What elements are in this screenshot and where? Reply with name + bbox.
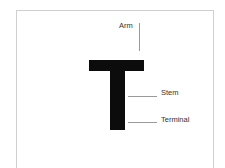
arm-leader-line xyxy=(139,23,140,51)
stem-label: Stem xyxy=(161,89,179,97)
terminal-leader-line xyxy=(128,122,157,123)
arm-label: Arm xyxy=(119,22,133,30)
stem-leader-line xyxy=(128,96,157,97)
t-stem xyxy=(110,70,125,130)
terminal-label: Terminal xyxy=(161,116,189,124)
